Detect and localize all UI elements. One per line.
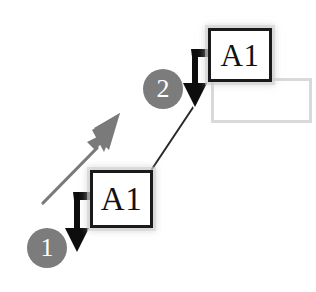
cell-box-lower[interactable]: A1 xyxy=(90,170,153,228)
cell-box-upper[interactable]: A1 xyxy=(208,28,272,82)
empty-target-rectangle[interactable] xyxy=(211,78,312,123)
cell-box-lower-label: A1 xyxy=(101,183,143,216)
fill-handle-cursor-1-icon xyxy=(65,192,92,252)
fill-handle-cursor-2-icon xyxy=(183,49,210,107)
step-badge-1: 1 xyxy=(27,228,67,268)
diagram-canvas: A1 A1 1 2 xyxy=(0,0,316,292)
step-link-line-icon xyxy=(152,103,196,169)
cell-box-upper-label: A1 xyxy=(220,40,259,71)
step-badge-2: 2 xyxy=(143,69,183,109)
